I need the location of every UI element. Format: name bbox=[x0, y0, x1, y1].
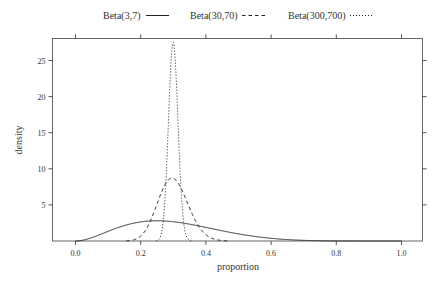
y-axis-label: density bbox=[13, 126, 24, 155]
legend-label-beta-3-7: Beta(3,7) bbox=[103, 10, 141, 22]
x-tick-label: 0.6 bbox=[266, 249, 276, 258]
x-tick-label: 1.0 bbox=[397, 249, 407, 258]
curve-beta-300-700 bbox=[156, 42, 191, 241]
legend-label-beta-300-700: Beta(300,700) bbox=[288, 10, 346, 22]
curve-beta-30-70 bbox=[126, 178, 227, 241]
x-tick-label: 0.2 bbox=[136, 249, 146, 258]
x-tick-label: 0.8 bbox=[331, 249, 341, 258]
curve-beta-3-7 bbox=[76, 221, 402, 241]
y-tick-label: 25 bbox=[38, 57, 46, 66]
chart-canvas: Beta(3,7) Beta(30,70) Beta(300,700) 0.00… bbox=[0, 0, 448, 286]
y-tick-label: 15 bbox=[38, 129, 46, 138]
y-tick-label: 5 bbox=[42, 201, 46, 210]
x-axis-label: proportion bbox=[217, 261, 259, 272]
y-axis: 510152025 bbox=[38, 57, 427, 210]
x-tick-label: 0.0 bbox=[71, 249, 81, 258]
y-tick-label: 20 bbox=[38, 93, 46, 102]
x-axis: 0.00.20.40.60.81.0 bbox=[71, 35, 407, 259]
y-tick-label: 10 bbox=[38, 165, 46, 174]
legend-label-beta-30-70: Beta(30,70) bbox=[190, 10, 238, 22]
plot-frame bbox=[53, 39, 423, 242]
x-tick-label: 0.4 bbox=[201, 249, 211, 258]
legend: Beta(3,7) Beta(30,70) Beta(300,700) bbox=[103, 10, 374, 22]
plot-area bbox=[76, 42, 402, 241]
